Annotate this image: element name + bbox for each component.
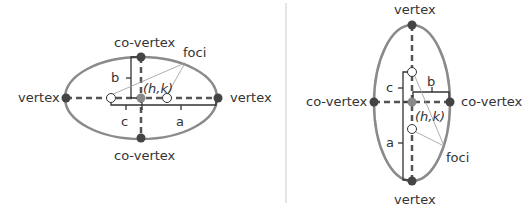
b-bracket	[413, 92, 449, 102]
label-center: (h,k)	[143, 81, 173, 96]
focus-bottom-point	[408, 125, 417, 134]
label-vertex-left: vertex	[18, 90, 60, 105]
ellipse-diagram: vertex vertex co-vertex co-vertex foci (…	[0, 0, 530, 215]
label-foci: foci	[183, 45, 206, 60]
label-covertex-top: co-vertex	[114, 35, 176, 50]
covertex-right-point	[446, 98, 455, 107]
center-point	[408, 98, 417, 107]
label-a: a	[386, 135, 394, 150]
horizontal-ellipse-figure: vertex vertex co-vertex co-vertex foci (…	[18, 35, 272, 163]
label-center: (h,k)	[415, 109, 445, 124]
label-covertex-bottom: co-vertex	[114, 148, 176, 163]
label-vertex-right: vertex	[230, 90, 272, 105]
label-b: b	[111, 70, 119, 85]
label-covertex-left: co-vertex	[306, 94, 368, 109]
foci-leader-2	[414, 131, 444, 146]
covertex-bottom-point	[137, 134, 146, 143]
focus-top-point	[408, 68, 417, 77]
label-b: b	[427, 74, 435, 89]
label-vertex-bottom: vertex	[394, 192, 436, 207]
label-vertex-top: vertex	[394, 2, 436, 17]
label-a: a	[176, 114, 184, 129]
label-c: c	[121, 114, 128, 129]
covertex-left-point	[370, 98, 379, 107]
vertex-right-point	[214, 94, 223, 103]
label-foci: foci	[446, 150, 469, 165]
vertex-bottom-point	[408, 177, 417, 186]
b-bracket	[131, 57, 141, 98]
vertex-left-point	[62, 94, 71, 103]
covertex-top-point	[137, 53, 146, 62]
vertical-ellipse-figure: vertex vertex co-vertex co-vertex foci (…	[306, 2, 523, 207]
label-covertex-right: co-vertex	[461, 94, 523, 109]
label-c: c	[386, 80, 393, 95]
vertex-top-point	[408, 21, 417, 30]
focus-left-point	[107, 94, 116, 103]
